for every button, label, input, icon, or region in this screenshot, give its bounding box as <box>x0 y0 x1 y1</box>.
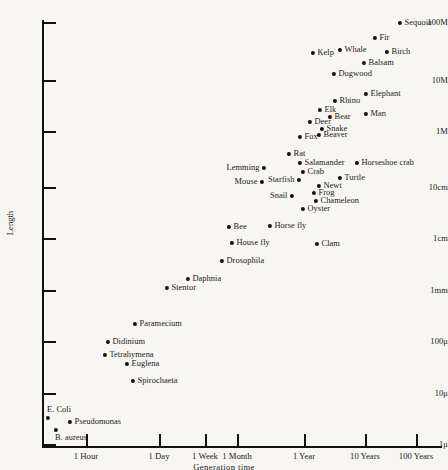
data-point-label: Turtle <box>345 174 365 182</box>
data-point-marker <box>364 92 368 96</box>
data-point-label: Fox <box>305 133 318 141</box>
x-tick-label: 100 Years <box>399 452 433 461</box>
y-tick-mark <box>44 341 56 343</box>
data-point-label: Man <box>371 110 387 118</box>
data-point-label: Didinium <box>113 338 146 346</box>
y-tick-label: 1M <box>410 127 448 136</box>
data-point-label: Euglena <box>132 360 160 368</box>
y-tick-mark <box>44 22 56 24</box>
data-point-marker <box>385 50 389 54</box>
data-point-marker <box>298 161 302 165</box>
y-tick-label: 100μ <box>410 337 448 346</box>
data-point-marker <box>262 166 266 170</box>
data-point-marker <box>133 322 137 326</box>
data-point-label: Horse fly <box>275 222 307 230</box>
x-tick-mark <box>304 434 306 446</box>
data-point-marker <box>355 161 359 165</box>
data-point-marker <box>315 242 319 246</box>
data-point-marker <box>332 72 336 76</box>
x-axis-title: Generation time <box>0 462 448 470</box>
scatter-plot: Length Generation time 100M10M1M10cm1cm1… <box>0 0 448 470</box>
y-tick-mark <box>44 238 56 240</box>
data-point-marker <box>287 152 291 156</box>
data-point-label: Oyster <box>308 205 331 213</box>
x-tick-mark <box>365 434 367 446</box>
data-point-label: Bee <box>234 223 247 231</box>
y-tick-label: 10μ <box>410 389 448 398</box>
data-point-marker <box>227 225 231 229</box>
y-axis-title: Length <box>5 200 15 246</box>
data-point-label: Rhino <box>340 97 361 105</box>
data-point-label: Daphnia <box>193 275 222 283</box>
data-point-label: Fir <box>380 34 390 42</box>
x-tick-label: 1 Week <box>192 452 218 461</box>
data-point-label: B. aureus <box>55 434 87 442</box>
data-point-marker <box>301 170 305 174</box>
y-tick-mark <box>44 131 56 133</box>
y-tick-mark <box>44 80 56 82</box>
y-tick-mark <box>44 444 56 446</box>
y-tick-label: 1mm <box>410 286 448 295</box>
data-point-label: Dogwood <box>339 70 372 78</box>
y-tick-label: 1cm <box>410 234 448 243</box>
data-point-marker <box>230 241 234 245</box>
data-point-marker <box>68 420 72 424</box>
data-point-marker <box>268 224 272 228</box>
data-point-label: Snail <box>270 192 287 200</box>
x-tick-mark <box>159 434 161 446</box>
data-point-marker <box>373 36 377 40</box>
data-point-marker <box>290 194 294 198</box>
data-point-label: Mouse <box>234 178 257 186</box>
data-point-marker <box>318 108 322 112</box>
data-point-label: Beaver <box>324 131 348 139</box>
data-point-marker <box>338 48 342 52</box>
data-point-label: Kelp <box>318 49 334 57</box>
data-point-marker <box>333 99 337 103</box>
x-tick-label: 10 Years <box>350 452 380 461</box>
data-point-label: Sequoia <box>405 19 432 27</box>
data-point-marker <box>260 180 264 184</box>
data-point-marker <box>398 21 402 25</box>
data-point-marker <box>314 199 318 203</box>
data-point-label: Rat <box>294 150 306 158</box>
x-tick-label: 1 Month <box>222 452 252 461</box>
data-point-marker <box>103 353 107 357</box>
x-tick-label: 1 Hour <box>74 452 98 461</box>
data-point-marker <box>220 259 224 263</box>
data-point-marker <box>165 286 169 290</box>
data-point-label: Paramecium <box>140 320 182 328</box>
data-point-label: Stentor <box>172 284 197 292</box>
x-axis-line <box>42 446 442 448</box>
y-tick-mark <box>44 290 56 292</box>
data-point-marker <box>131 379 135 383</box>
y-tick-label: 10cm <box>410 183 448 192</box>
data-point-label: Crab <box>308 168 324 176</box>
data-point-label: Horseshoe crab <box>362 159 415 167</box>
data-point-label: Drosophila <box>227 257 265 265</box>
data-point-marker <box>364 112 368 116</box>
data-point-marker <box>46 416 50 420</box>
data-point-label: Lemming <box>227 164 260 172</box>
data-point-label: Starfish <box>268 176 294 184</box>
data-point-marker <box>298 135 302 139</box>
data-point-marker <box>362 61 366 65</box>
data-point-label: Whale <box>345 46 367 54</box>
data-point-marker <box>125 362 129 366</box>
y-tick-mark <box>44 187 56 189</box>
y-axis-line <box>42 20 44 448</box>
data-point-label: E. Coli <box>47 406 71 414</box>
data-point-label: Balsam <box>369 59 394 67</box>
data-point-label: Clam <box>322 240 340 248</box>
data-point-marker <box>54 428 58 432</box>
data-point-label: Birch <box>392 48 411 56</box>
data-point-label: Pseudomonas <box>75 418 122 426</box>
data-point-marker <box>338 176 342 180</box>
data-point-label: Elephant <box>371 90 401 98</box>
data-point-label: House fly <box>237 239 270 247</box>
data-point-marker <box>312 191 316 195</box>
y-tick-label: 10M <box>410 76 448 85</box>
x-tick-mark <box>237 434 239 446</box>
data-point-marker <box>311 51 315 55</box>
data-point-marker <box>301 207 305 211</box>
x-tick-label: 1 Day <box>149 452 170 461</box>
